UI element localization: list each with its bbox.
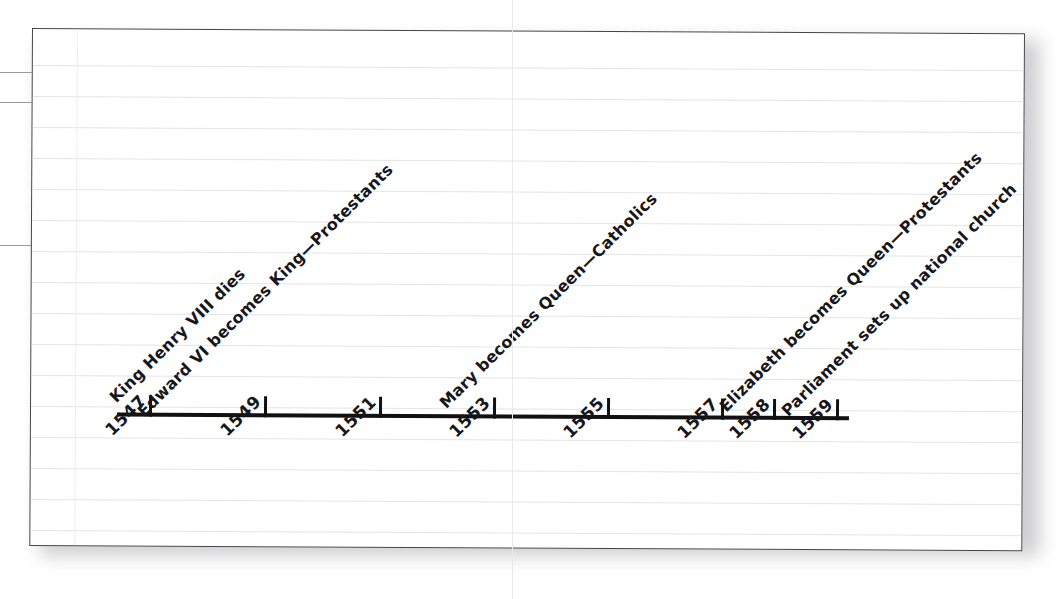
screenshot-root: 1547 1549 1551 1553 1555 1557 1558 1559 … [0, 0, 1060, 599]
event-label-edward-vi-king: Edward VI becomes King—Protestants [134, 160, 397, 421]
tick-mark [836, 399, 839, 420]
tick-mark [773, 399, 776, 420]
event-label-elizabeth-queen: Elizabeth becomes Queen—Protestants [716, 148, 986, 415]
tick-mark [379, 397, 382, 418]
event-label-mary-queen: Mary becomes Queen—Catholics [436, 189, 661, 412]
binder-clip-fragment [0, 72, 34, 246]
scan-seam-line [512, 0, 513, 599]
tick-mark [493, 397, 496, 418]
tick-mark [264, 396, 267, 417]
timeline-diagram: 1547 1549 1551 1553 1555 1557 1558 1559 … [30, 29, 1025, 551]
binder-clip-divider [0, 102, 34, 103]
tick-mark [607, 398, 610, 419]
event-label-parliament-church: Parliament sets up national church [778, 179, 1021, 420]
notebook-sheet: 1547 1549 1551 1553 1555 1557 1558 1559 … [29, 28, 1025, 551]
